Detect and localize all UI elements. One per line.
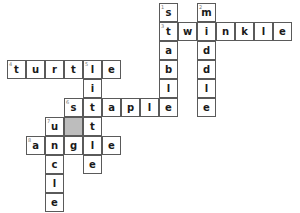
letter-cell[interactable]: e	[102, 136, 121, 155]
shaded-cell	[64, 117, 83, 136]
letter-cell[interactable]: l	[83, 136, 102, 155]
cell-letter: l	[148, 102, 151, 113]
letter-cell[interactable]: p	[121, 98, 140, 117]
letter-cell[interactable]: e	[159, 98, 178, 117]
letter-cell[interactable]: i	[83, 79, 102, 98]
cell-letter: e	[108, 140, 115, 151]
cell-letter: i	[91, 83, 94, 94]
cell-letter: e	[203, 102, 210, 113]
clue-number: 7	[47, 118, 50, 124]
crossword-grid: 1s3table2middlewnkle4turt5leittle6sapl7u…	[0, 0, 300, 213]
cell-letter: a	[108, 102, 115, 113]
letter-cell[interactable]: t	[83, 117, 102, 136]
letter-cell[interactable]: 8a	[26, 136, 45, 155]
cell-letter: n	[51, 140, 58, 151]
cell-letter: l	[167, 83, 170, 94]
letter-cell[interactable]: d	[197, 60, 216, 79]
cell-letter: t	[71, 64, 76, 75]
cell-letter: p	[127, 102, 134, 113]
cell-letter: w	[183, 26, 192, 37]
letter-cell[interactable]: 3t	[159, 22, 178, 41]
letter-cell[interactable]: b	[159, 60, 178, 79]
cell-letter: l	[205, 83, 208, 94]
cell-letter: e	[165, 102, 172, 113]
letter-cell[interactable]: c	[45, 155, 64, 174]
cell-letter: s	[71, 102, 77, 113]
letter-cell[interactable]: 2m	[197, 3, 216, 22]
letter-cell[interactable]: e	[45, 193, 64, 212]
cell-letter: l	[262, 26, 265, 37]
cell-letter: a	[165, 45, 172, 56]
cell-letter: t	[90, 102, 95, 113]
cell-letter: d	[203, 45, 210, 56]
letter-cell[interactable]: l	[45, 174, 64, 193]
cell-letter: r	[52, 64, 57, 75]
letter-cell[interactable]: n	[216, 22, 235, 41]
letter-cell[interactable]: g	[64, 136, 83, 155]
cell-letter: u	[51, 121, 58, 132]
letter-cell[interactable]: t	[83, 98, 102, 117]
cell-letter: k	[241, 26, 248, 37]
letter-cell[interactable]: e	[102, 60, 121, 79]
letter-cell[interactable]: 5l	[83, 60, 102, 79]
letter-cell[interactable]: u	[26, 60, 45, 79]
cell-letter: i	[205, 26, 208, 37]
cell-letter: t	[14, 64, 19, 75]
cell-letter: e	[279, 26, 286, 37]
cell-letter: e	[51, 197, 58, 208]
cell-letter: l	[91, 140, 94, 151]
letter-cell[interactable]: i	[197, 22, 216, 41]
letter-cell[interactable]: t	[64, 60, 83, 79]
letter-cell[interactable]: 6s	[64, 98, 83, 117]
letter-cell[interactable]: n	[45, 136, 64, 155]
cell-letter: l	[91, 64, 94, 75]
letter-cell[interactable]: r	[45, 60, 64, 79]
cell-letter: t	[166, 26, 171, 37]
cell-letter: u	[32, 64, 39, 75]
letter-cell[interactable]: l	[140, 98, 159, 117]
cell-letter: t	[90, 121, 95, 132]
clue-number: 1	[161, 4, 164, 10]
letter-cell[interactable]: a	[159, 41, 178, 60]
clue-number: 5	[85, 61, 88, 67]
letter-cell[interactable]: e	[197, 98, 216, 117]
letter-cell[interactable]: 7u	[45, 117, 64, 136]
cell-letter: n	[222, 26, 229, 37]
cell-letter: l	[53, 178, 56, 189]
cell-letter: g	[70, 140, 77, 151]
cell-letter: m	[201, 7, 211, 18]
letter-cell[interactable]: a	[102, 98, 121, 117]
letter-cell[interactable]: l	[254, 22, 273, 41]
clue-number: 2	[199, 4, 202, 10]
cell-letter: d	[203, 64, 210, 75]
letter-cell[interactable]: 1s	[159, 3, 178, 22]
letter-cell[interactable]: d	[197, 41, 216, 60]
clue-number: 6	[66, 99, 69, 105]
cell-letter: c	[52, 159, 58, 170]
letter-cell[interactable]: 4t	[7, 60, 26, 79]
letter-cell[interactable]: w	[178, 22, 197, 41]
letter-cell[interactable]: e	[273, 22, 292, 41]
letter-cell[interactable]: l	[159, 79, 178, 98]
clue-number: 3	[161, 23, 164, 29]
letter-cell[interactable]: l	[197, 79, 216, 98]
cell-letter: b	[165, 64, 172, 75]
cell-letter: e	[89, 159, 96, 170]
clue-number: 8	[28, 137, 31, 143]
cell-letter: s	[166, 7, 172, 18]
letter-cell[interactable]: k	[235, 22, 254, 41]
letter-cell[interactable]: e	[83, 155, 102, 174]
cell-letter: e	[108, 64, 115, 75]
clue-number: 4	[9, 61, 12, 67]
cell-letter: a	[32, 140, 39, 151]
